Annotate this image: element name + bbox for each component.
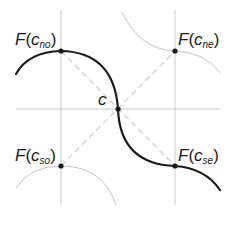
label-f-c-se: F(cse) (178, 147, 219, 166)
label-c: c (98, 91, 107, 108)
label-close-paren: ) (50, 146, 56, 165)
label-func: F (178, 146, 188, 165)
label-subscript: se (203, 155, 214, 166)
label-close-paren: ) (51, 30, 57, 49)
label-f-c-ne: F(cne) (178, 31, 219, 50)
label-var: c (194, 30, 203, 49)
label-var: c (31, 30, 40, 49)
label-subscript: no (40, 39, 51, 50)
point-se (172, 163, 177, 168)
label-f-c-so: F(cso) (15, 147, 56, 166)
label-subscript: ne (203, 39, 214, 50)
label-var: c (194, 146, 203, 165)
label-func: F (15, 30, 25, 49)
label-var: c (31, 146, 40, 165)
function-curve (16, 51, 220, 190)
point-so (58, 163, 63, 168)
label-close-paren: ) (213, 146, 219, 165)
point-c (115, 106, 120, 111)
label-f-c-no: F(cno) (15, 31, 56, 50)
point-no (58, 48, 63, 53)
label-subscript: so (40, 155, 51, 166)
label-func: F (15, 146, 25, 165)
label-center: c (98, 90, 107, 109)
point-ne (172, 48, 177, 53)
label-func: F (178, 30, 188, 49)
arc-so (16, 166, 116, 205)
label-close-paren: ) (214, 30, 220, 49)
